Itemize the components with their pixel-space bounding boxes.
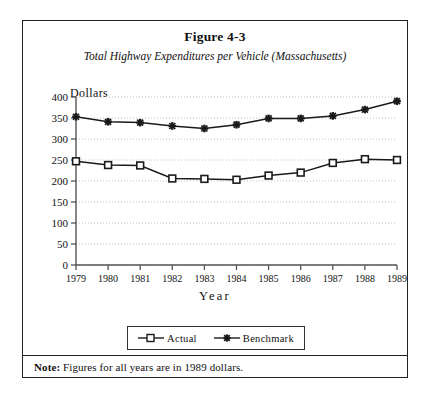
data-point-marker: [73, 158, 80, 165]
data-point-marker: [169, 175, 176, 182]
data-point-marker: [361, 106, 369, 114]
y-tick-label: 200: [52, 175, 69, 187]
data-point-marker: [393, 97, 401, 105]
chart-legend: Actual Benchmark: [127, 326, 305, 350]
data-point-marker: [265, 172, 272, 179]
x-tick-label: 1982: [162, 273, 182, 284]
note-label: Note:: [34, 361, 60, 373]
figure-frame: Figure 4-3 Total Highway Expenditures pe…: [22, 20, 408, 378]
y-tick-label: 150: [52, 196, 69, 208]
data-point-marker: [329, 112, 337, 120]
data-point-marker: [394, 157, 401, 164]
legend-item-actual: Actual: [138, 332, 197, 344]
y-tick-label: 350: [52, 112, 69, 124]
figure-page: Figure 4-3 Total Highway Expenditures pe…: [0, 0, 430, 397]
legend-marker-filled-star-icon: [214, 332, 240, 344]
x-tick-label: 1979: [66, 273, 86, 284]
x-tick-label: 1986: [291, 273, 311, 284]
note-text: Figures for all years are in 1989 dollar…: [60, 361, 243, 373]
x-tick-label: 1989: [387, 273, 407, 284]
y-tick-label: 250: [52, 154, 69, 166]
data-point-marker: [104, 118, 112, 126]
x-tick-label: 1987: [323, 273, 343, 284]
note-divider: [23, 355, 407, 356]
data-point-marker: [136, 119, 144, 127]
data-point-marker: [233, 176, 240, 183]
y-tick-label: 400: [52, 91, 69, 103]
figure-note: Note: Figures for all years are in 1989 …: [34, 361, 243, 373]
data-point-marker: [362, 156, 369, 163]
legend-item-benchmark: Benchmark: [214, 332, 294, 344]
data-point-marker: [297, 115, 305, 123]
x-tick-label: 1985: [259, 273, 279, 284]
data-point-marker: [137, 162, 144, 169]
y-tick-label: 0: [63, 259, 69, 271]
data-point-marker: [201, 176, 208, 183]
legend-label-actual: Actual: [167, 333, 197, 344]
data-point-marker: [105, 162, 112, 169]
chart-svg: 0501001502002503003504001979198019811982…: [23, 21, 409, 321]
data-point-marker: [297, 169, 304, 176]
x-tick-label: 1988: [355, 273, 375, 284]
data-point-marker: [72, 113, 80, 121]
data-point-marker: [265, 115, 273, 123]
legend-marker-open-square-icon: [138, 332, 164, 344]
x-tick-label: 1983: [194, 273, 214, 284]
y-tick-label: 50: [57, 238, 69, 250]
x-tick-label: 1980: [98, 273, 118, 284]
x-tick-label: 1981: [130, 273, 150, 284]
legend-label-benchmark: Benchmark: [243, 333, 294, 344]
data-point-marker: [169, 122, 177, 130]
x-axis-caption: Year: [23, 289, 407, 304]
data-point-marker: [233, 121, 241, 129]
data-point-marker: [201, 125, 209, 133]
x-tick-label: 1984: [227, 273, 247, 284]
data-point-marker: [329, 160, 336, 167]
y-tick-label: 300: [52, 133, 69, 145]
y-tick-label: 100: [52, 217, 69, 229]
